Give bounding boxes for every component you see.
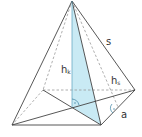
right-angle-dot-center	[74, 102, 75, 103]
right-angle-dot-side	[113, 108, 114, 109]
label-s: s	[106, 36, 111, 47]
label-hs: hs	[111, 75, 120, 86]
label-a: a	[121, 109, 127, 120]
right-angle-marker-side	[110, 104, 113, 113]
pyramid-diagram: s hk hs a	[0, 0, 142, 137]
label-hk: hk	[61, 64, 71, 75]
